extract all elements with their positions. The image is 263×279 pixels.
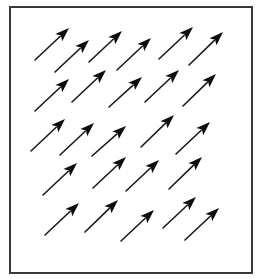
arrow-shaft bbox=[163, 205, 187, 228]
arrow bbox=[89, 31, 122, 62]
arrow bbox=[183, 74, 216, 106]
arrow-shaft bbox=[55, 48, 80, 72]
arrow-shaft bbox=[60, 131, 85, 155]
arrow bbox=[35, 28, 69, 60]
arrow bbox=[117, 38, 151, 70]
arrow-shaft bbox=[72, 78, 97, 102]
arrow-shaft bbox=[117, 46, 142, 70]
arrow-shaft bbox=[176, 130, 201, 154]
arrow bbox=[185, 208, 219, 240]
arrow-shaft bbox=[92, 134, 117, 156]
arrow-shaft bbox=[93, 165, 117, 188]
arrow bbox=[72, 70, 106, 102]
vector-field-diagram bbox=[0, 0, 263, 279]
arrow bbox=[45, 203, 79, 235]
arrow bbox=[159, 27, 193, 59]
arrow bbox=[176, 122, 210, 154]
arrow bbox=[145, 70, 179, 102]
arrow bbox=[60, 123, 94, 155]
arrow bbox=[163, 197, 196, 228]
arrow-shaft bbox=[43, 171, 68, 195]
arrow-shaft bbox=[189, 40, 214, 65]
arrow bbox=[109, 77, 142, 107]
arrow bbox=[126, 160, 159, 191]
arrow-shaft bbox=[185, 216, 210, 240]
arrow bbox=[189, 32, 223, 65]
arrow-shaft bbox=[35, 36, 60, 60]
arrow bbox=[92, 126, 126, 156]
arrow-shaft bbox=[85, 208, 109, 232]
arrow-shaft bbox=[109, 85, 133, 107]
arrow-shaft bbox=[45, 211, 70, 235]
arrow bbox=[31, 119, 65, 151]
arrow-shaft bbox=[121, 218, 145, 241]
arrow-shaft bbox=[141, 123, 165, 147]
arrow bbox=[55, 40, 89, 72]
arrow-shaft bbox=[35, 87, 60, 111]
arrow-shaft bbox=[126, 168, 150, 191]
arrow-shaft bbox=[31, 127, 56, 151]
arrow bbox=[43, 163, 77, 195]
arrow-group bbox=[31, 27, 223, 241]
arrow bbox=[85, 200, 118, 232]
arrow bbox=[141, 115, 174, 147]
arrow-shaft bbox=[159, 35, 184, 59]
arrow-shaft bbox=[145, 78, 170, 102]
arrow-shaft bbox=[89, 39, 113, 62]
arrow-shaft bbox=[183, 82, 207, 106]
arrow bbox=[35, 79, 69, 111]
arrow bbox=[93, 157, 126, 188]
arrow-shaft bbox=[169, 165, 193, 189]
arrow bbox=[121, 210, 154, 241]
arrow bbox=[169, 157, 202, 189]
